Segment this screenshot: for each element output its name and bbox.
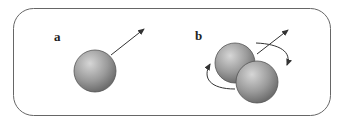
diagram-canvas [0,0,343,126]
sphere-front [236,61,278,103]
sphere [74,50,116,92]
panel-a [74,29,144,92]
panel-label-b: b [195,28,202,44]
panel-label-a: a [54,29,61,45]
frame [14,9,331,116]
panel-b [207,30,288,103]
translation-arrow-icon [111,29,144,55]
